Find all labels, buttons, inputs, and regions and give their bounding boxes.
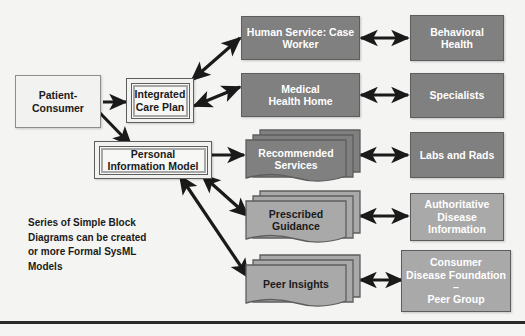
diagram-canvas: Patient- Consumer Integrated Care Plan P… xyxy=(0,0,525,336)
node-authoritative-disease-information[interactable]: Authoritative Disease Information xyxy=(410,193,504,241)
node-label-consumer-disease-foundation-peer-group: Consumer Disease Foundation – Peer Group xyxy=(402,256,510,306)
node-specialists[interactable]: Specialists xyxy=(410,73,504,118)
bottom-divider xyxy=(0,321,525,324)
node-label-authoritative-disease-information: Authoritative Disease Information xyxy=(425,198,490,235)
node-medical-health-home[interactable]: Medical Health Home xyxy=(241,73,360,117)
diagram-note: Series of Simple Block Diagrams can be c… xyxy=(28,216,193,274)
node-label-labs-and-rads: Labs and Rads xyxy=(420,149,495,161)
node-peer-insights[interactable]: Peer Insights xyxy=(244,253,362,309)
node-labs-and-rads[interactable]: Labs and Rads xyxy=(410,132,504,178)
node-label-personal-information-model: Personal Information Model xyxy=(108,148,199,173)
connector-careplan-to-medicalhome xyxy=(194,87,240,106)
node-consumer-disease-foundation-peer-group[interactable]: Consumer Disease Foundation – Peer Group xyxy=(401,250,511,312)
node-label-integrated-care-plan: Integrated Care Plan xyxy=(135,88,186,113)
node-label-recommended-services: Recommended Services xyxy=(246,147,346,172)
node-frame-inner-personal-information-model: Personal Information Model xyxy=(99,146,208,175)
connector-careplan-to-humanservice xyxy=(192,38,240,80)
node-personal-information-model[interactable]: Personal Information Model xyxy=(94,141,212,179)
node-label-behavioral-health: Behavioral Health xyxy=(430,26,484,51)
node-label-human-service-case-worker: Human Service: Case Worker xyxy=(247,26,354,51)
node-label-specialists: Specialists xyxy=(430,89,485,101)
node-label-medical-health-home: Medical Health Home xyxy=(268,83,332,108)
node-label-peer-insights: Peer Insights xyxy=(246,278,346,290)
node-recommended-services[interactable]: Recommended Services xyxy=(244,128,362,184)
node-prescribed-guidance[interactable]: Prescribed Guidance xyxy=(244,189,362,245)
node-integrated-care-plan[interactable]: Integrated Care Plan xyxy=(126,78,194,123)
node-human-service-case-worker[interactable]: Human Service: Case Worker xyxy=(241,16,360,60)
connector-pim-to-prescribed xyxy=(202,175,248,216)
node-patient-consumer[interactable]: Patient- Consumer xyxy=(15,75,101,128)
node-behavioral-health[interactable]: Behavioral Health xyxy=(410,15,504,61)
node-label-prescribed-guidance: Prescribed Guidance xyxy=(246,208,346,233)
node-label-patient-consumer: Patient- Consumer xyxy=(32,89,84,114)
node-frame-inner-integrated-care-plan: Integrated Care Plan xyxy=(131,83,190,119)
